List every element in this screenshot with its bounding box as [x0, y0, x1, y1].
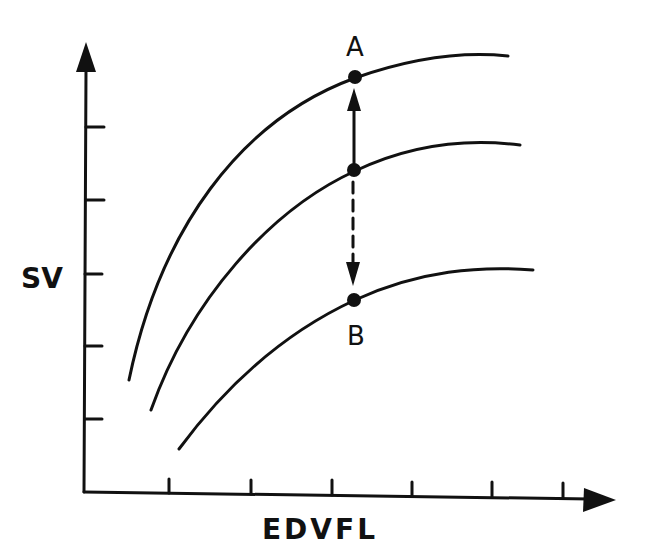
y-axis [84, 70, 86, 492]
x-axis [84, 492, 590, 499]
point-a-label: A [346, 32, 364, 62]
middle-point-marker [347, 163, 361, 177]
point-b-label: B [347, 321, 365, 351]
point-a-marker [348, 70, 362, 84]
y-axis-ticks [85, 127, 104, 419]
frank-starling-diagram: A B SV EDVFL [0, 0, 646, 560]
y-axis-label: SV [21, 262, 63, 295]
arrowhead-down-icon [346, 262, 360, 286]
y-axis-arrowhead-icon [76, 42, 96, 72]
middle-curve [151, 143, 520, 410]
x-axis-label: EDVFL [262, 513, 378, 546]
x-axis-arrowhead-icon [583, 488, 616, 512]
arrowhead-up-icon [347, 88, 361, 111]
point-b-marker [347, 293, 361, 307]
